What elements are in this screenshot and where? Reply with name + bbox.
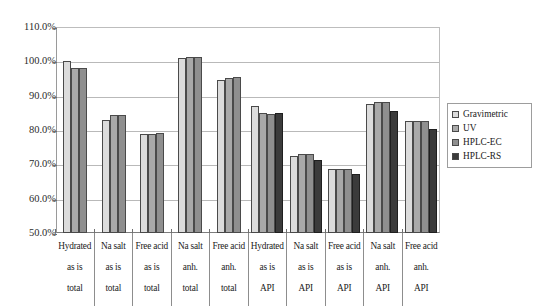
x-axis-category-line: API [403, 278, 441, 299]
x-axis-category-line: Na salt [364, 236, 402, 257]
x-axis-category-line: as is [56, 257, 94, 278]
x-axis-category-line: API [326, 278, 364, 299]
y-axis-tick-label: 60.0% [29, 194, 56, 204]
y-axis-tick-mark [53, 28, 57, 29]
x-axis-category-line: API [364, 278, 402, 299]
legend-item: Gravimetric [452, 107, 528, 121]
legend-label: HPLC-EC [463, 137, 502, 147]
x-axis-category-line: Na salt [287, 236, 325, 257]
x-axis-tick-mark [209, 229, 210, 233]
y-axis-tick-label: 100.0% [24, 56, 56, 66]
x-axis-tick-mark [248, 229, 249, 233]
x-axis-category-line: as is [95, 257, 133, 278]
x-axis-category-cell: Free acidas istotal [133, 233, 172, 306]
x-axis-tick-mark [363, 229, 364, 233]
x-axis-tick-mark [286, 229, 287, 233]
x-axis-category-cell: Na saltanh.API [364, 233, 403, 306]
x-axis-category-cell: Na saltas isAPI [287, 233, 326, 306]
x-axis-category-line: API [249, 278, 287, 299]
x-axis-category-cell: Hydratedas istotal [56, 233, 95, 306]
legend-item: HPLC-EC [452, 135, 528, 149]
x-axis-category-cell: Na saltas istotal [95, 233, 134, 306]
y-axis-tick-mark [53, 165, 57, 166]
y-axis-tick-label: 80.0% [29, 125, 56, 135]
legend-item: UV [452, 121, 528, 135]
x-axis-category-line: total [210, 278, 248, 299]
gridline [57, 131, 439, 132]
legend-item: HPLC-RS [452, 149, 528, 163]
gridline [57, 200, 439, 201]
x-axis-category-cell: Na saltanh.total [172, 233, 211, 306]
y-axis-tick-label: 110.0% [24, 22, 56, 32]
x-axis-category-line: API [287, 278, 325, 299]
x-axis-category-line: as is [287, 257, 325, 278]
x-axis-tick-mark [132, 229, 133, 233]
y-axis-tick-label: 70.0% [29, 159, 56, 169]
y-axis-tick-label: 90.0% [29, 91, 56, 101]
legend-label: HPLC-RS [463, 151, 501, 161]
chart-legend: GravimetricUVHPLC-ECHPLC-RS [447, 103, 532, 168]
x-axis-category-line: Free acid [210, 236, 248, 257]
x-axis-category-line: anh. [172, 257, 210, 278]
y-axis-tick-label: 50.0% [29, 228, 56, 238]
x-axis-category-line: total [172, 278, 210, 299]
gridline [57, 165, 439, 166]
y-axis-tick-mark [53, 200, 57, 201]
legend-swatch-icon [452, 153, 459, 160]
x-axis-category-line: as is [326, 257, 364, 278]
x-axis-category-line: as is [133, 257, 171, 278]
x-axis-tick-mark [402, 229, 403, 233]
x-axis-category-cell: Hydratedas isAPI [249, 233, 288, 306]
x-axis-category-line: total [56, 278, 94, 299]
x-axis-category-line: total [95, 278, 133, 299]
gridline [57, 62, 439, 63]
x-axis-category-line: Free acid [326, 236, 364, 257]
x-axis-category-cell: Free acidanh.total [210, 233, 249, 306]
y-axis-tick-mark [53, 131, 57, 132]
y-axis-tick-mark [53, 97, 57, 98]
x-axis-category-labels: Hydratedas istotalNa saltas istotalFree … [56, 233, 440, 306]
x-axis-category-line: as is [249, 257, 287, 278]
x-axis-tick-mark [55, 229, 56, 233]
y-axis: 110.0%100.0%90.0%80.0%70.0%60.0%50.0% [6, 0, 56, 306]
x-axis-tick-mark [325, 229, 326, 233]
plot-area [56, 27, 440, 233]
gridline [57, 97, 439, 98]
x-axis-category-line: Hydrated [56, 236, 94, 257]
x-axis-category-line: anh. [364, 257, 402, 278]
x-axis-category-line: Hydrated [249, 236, 287, 257]
legend-swatch-icon [452, 125, 459, 132]
x-axis-category-line: total [133, 278, 171, 299]
grouped-bar-chart: 110.0%100.0%90.0%80.0%70.0%60.0%50.0% Hy… [0, 0, 538, 306]
x-axis-category-line: Free acid [133, 236, 171, 257]
x-axis-category-line: anh. [210, 257, 248, 278]
legend-swatch-icon [452, 139, 459, 146]
legend-swatch-icon [452, 111, 459, 118]
legend-label: UV [463, 123, 476, 133]
y-axis-tick-mark [53, 62, 57, 63]
x-axis-tick-mark [94, 229, 95, 233]
x-axis-category-line: Free acid [403, 236, 441, 257]
x-axis-category-line: Na salt [172, 236, 210, 257]
x-axis-category-cell: Free acidanh.API [403, 233, 441, 306]
legend-label: Gravimetric [463, 109, 508, 119]
x-axis-category-line: anh. [403, 257, 441, 278]
x-axis-category-line: Na salt [95, 236, 133, 257]
x-axis-tick-mark [171, 229, 172, 233]
x-axis-category-cell: Free acidas isAPI [326, 233, 365, 306]
